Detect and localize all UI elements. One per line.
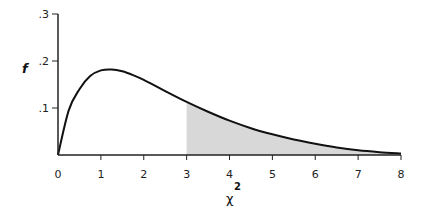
y-axis-ticks: .1.2.3 [39,8,59,115]
chi-square-chart: 012345678 .1.2.3 f χ 2 [0,0,424,219]
x-tick-label: 0 [55,168,62,181]
x-tick-label: 7 [355,168,362,181]
x-tick-label: 2 [140,168,147,181]
x-tick-label: 1 [97,168,104,181]
x-axis-title: χ [226,191,234,206]
y-tick-label: .2 [39,55,50,68]
x-tick-label: 3 [183,168,190,181]
y-tick-label: .3 [39,8,50,21]
x-axis-ticks: 012345678 [55,155,405,181]
x-tick-label: 5 [269,168,276,181]
y-tick-label: .1 [39,102,50,115]
y-axis-title: f [22,61,30,76]
x-tick-label: 6 [312,168,319,181]
x-tick-label: 4 [226,168,233,181]
shaded-tail-region [187,102,401,155]
x-axis-title-superscript: 2 [234,181,241,192]
x-tick-label: 8 [398,168,405,181]
